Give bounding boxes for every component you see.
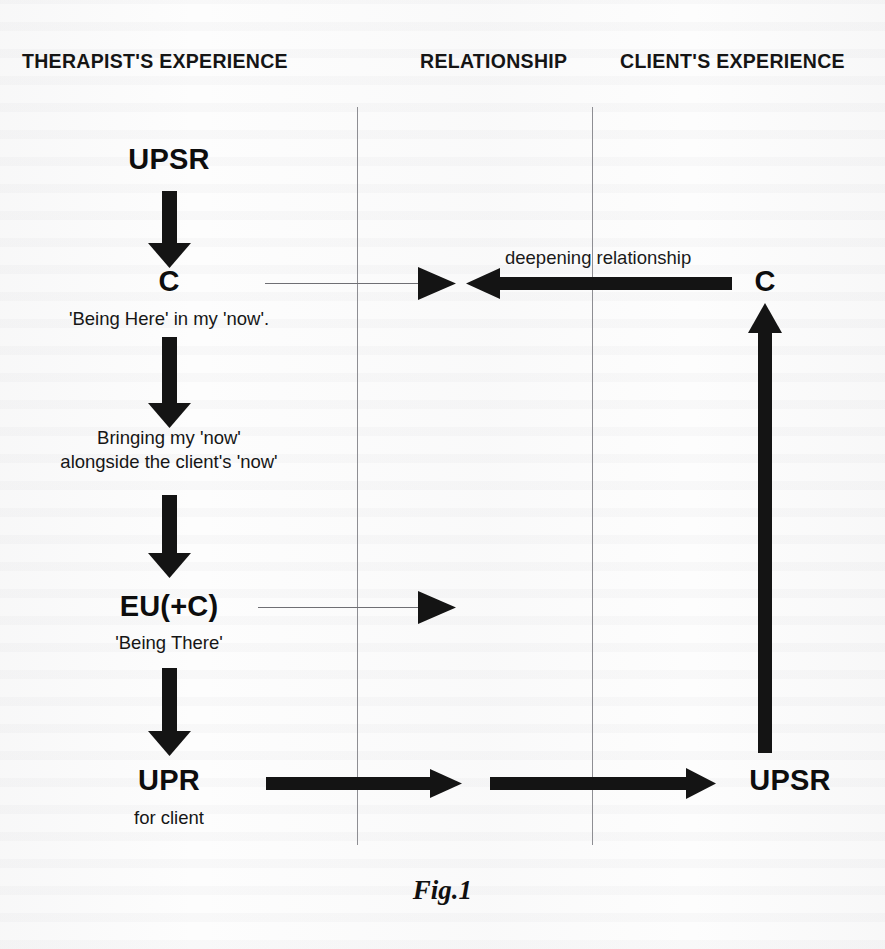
column-header-relationship: RELATIONSHIP [420, 50, 567, 73]
figure-caption: Fig.1 [0, 875, 885, 906]
note-being-here: 'Being Here' in my 'now'. [19, 308, 319, 330]
node-therapist-upr: UPR [69, 764, 269, 797]
arrow-right-upr-to-relationship [266, 769, 462, 798]
column-header-client: CLIENT'S EXPERIENCE [620, 50, 845, 73]
arrow-left-client-c-deepening [466, 268, 732, 299]
column-divider-right [592, 107, 593, 845]
note-bringing-now-line2: alongside the client's 'now' [19, 451, 319, 473]
arrow-up-client-upsr-to-c [748, 303, 782, 753]
arrow-down-eu-to-upr [148, 668, 191, 756]
column-header-therapist: THERAPIST'S EXPERIENCE [22, 50, 288, 73]
node-therapist-upsr: UPSR [69, 143, 269, 176]
node-therapist-eu-c: EU(+C) [69, 590, 269, 623]
node-client-upsr: UPSR [700, 764, 880, 797]
note-being-there: 'Being There' [19, 632, 319, 654]
arrow-down-upsr-to-c [148, 191, 191, 268]
note-bringing-now-line1: Bringing my 'now' [19, 427, 319, 449]
edge-label-deepening-relationship: deepening relationship [505, 247, 691, 269]
arrow-right-c-to-relationship [265, 267, 456, 300]
figure-canvas: THERAPIST'S EXPERIENCE RELATIONSHIP CLIE… [0, 0, 885, 949]
arrow-down-c-to-bringing [148, 337, 191, 428]
arrow-right-relationship-to-client-upsr [490, 768, 716, 799]
arrow-down-bringing-to-eu [148, 495, 191, 578]
note-for-client: for client [19, 807, 319, 829]
node-therapist-c: C [69, 265, 269, 298]
column-divider-left [357, 107, 358, 845]
node-client-c: C [715, 265, 815, 298]
